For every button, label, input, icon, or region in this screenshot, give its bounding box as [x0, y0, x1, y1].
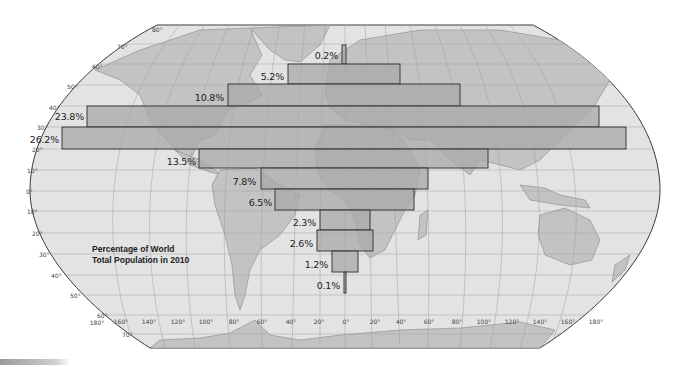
decorative-bottom-bar — [0, 359, 70, 365]
bar-value-label: 6.5% — [249, 197, 272, 208]
population-bar — [228, 84, 460, 106]
population-bar — [320, 210, 370, 230]
latitude-label: 40° — [51, 272, 62, 279]
latitude-label: 30° — [37, 124, 48, 131]
latitude-label: 10° — [27, 167, 38, 174]
population-bar — [317, 230, 373, 251]
map-title-line2: Total Population in 2010 — [92, 255, 189, 266]
world-population-map: 0.2%5.2%10.8%23.8%26.2%13.5%7.8%6.5%2.3%… — [0, 0, 682, 367]
map-title: Percentage of World Total Population in … — [92, 244, 189, 266]
longitude-label: 60° — [257, 318, 268, 325]
longitude-label: 40° — [396, 318, 407, 325]
longitude-label: 40° — [286, 318, 297, 325]
bar-value-label: 13.5% — [167, 156, 196, 167]
population-bar — [199, 149, 488, 168]
bar-value-label: 5.2% — [261, 71, 284, 82]
latitude-label: 0° — [26, 188, 33, 195]
latitude-label: 80° — [152, 26, 163, 33]
longitude-label: 140° — [142, 318, 156, 325]
longitude-label: 160° — [561, 318, 575, 325]
bar-value-label: 23.8% — [55, 111, 84, 122]
bar-value-label: 0.2% — [315, 50, 338, 61]
longitude-label: 80° — [452, 318, 463, 325]
latitude-label: 60° — [92, 63, 103, 70]
population-bar — [342, 45, 346, 64]
latitude-label: 40° — [49, 104, 60, 111]
latitude-label: 70° — [122, 331, 133, 338]
longitude-label: 80° — [229, 318, 240, 325]
bar-value-label: 2.3% — [293, 217, 316, 228]
longitude-label: 60° — [424, 318, 435, 325]
longitude-label: 120° — [171, 318, 185, 325]
longitude-label: 100° — [199, 318, 213, 325]
population-bar — [62, 127, 626, 149]
bar-value-label: 2.6% — [290, 238, 313, 249]
longitude-label: 100° — [477, 318, 491, 325]
population-bar — [332, 251, 358, 272]
population-bar — [261, 168, 428, 189]
longitude-label: 180° — [90, 319, 104, 326]
latitude-label: 20° — [32, 230, 43, 237]
longitude-label: 140° — [533, 318, 547, 325]
latitude-label: 20° — [32, 146, 43, 153]
bar-value-label: 26.2% — [30, 134, 59, 145]
latitude-label: 70° — [117, 43, 128, 50]
population-bar — [344, 272, 346, 293]
longitude-label: 160° — [114, 318, 128, 325]
latitude-label: 10° — [27, 208, 38, 215]
population-bar — [275, 189, 414, 210]
bar-value-label: 10.8% — [195, 92, 224, 103]
longitude-label: 120° — [505, 318, 519, 325]
latitude-label: 60° — [97, 312, 108, 319]
bar-value-label: 1.2% — [305, 259, 328, 270]
bar-value-label: 0.1% — [317, 280, 340, 291]
population-bar — [288, 64, 400, 84]
longitude-label: 180° — [589, 318, 603, 325]
map-title-line1: Percentage of World — [92, 244, 189, 255]
population-bar — [87, 106, 599, 127]
latitude-label: 50° — [67, 83, 78, 90]
latitude-label: 50° — [70, 292, 81, 299]
longitude-label: 20° — [370, 318, 381, 325]
bar-value-label: 7.8% — [233, 176, 256, 187]
longitude-label: 0° — [343, 318, 350, 325]
longitude-label: 20° — [314, 318, 325, 325]
latitude-label: 30° — [39, 251, 50, 258]
